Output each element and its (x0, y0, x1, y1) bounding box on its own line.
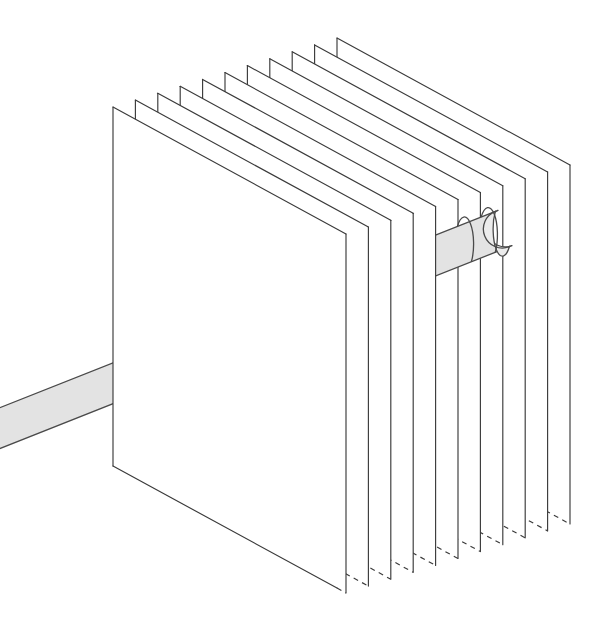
figure-canvas (0, 0, 611, 627)
plane-stack-diagram (0, 0, 611, 627)
